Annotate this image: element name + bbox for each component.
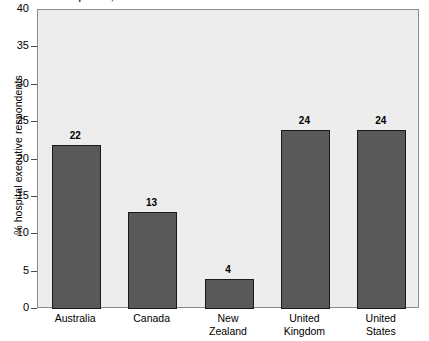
x-category-label-australia: Australia [35, 312, 115, 325]
y-tick-label: 15 [17, 189, 29, 201]
bar-new-zealand [205, 279, 254, 309]
bar-united-kingdom [281, 130, 330, 309]
y-tick-label: 25 [17, 114, 29, 126]
y-tick-label: 40 [17, 2, 29, 14]
bar-value-label: 24 [351, 115, 411, 126]
y-tick-label: 0 [23, 301, 29, 313]
y-tick-label: 5 [23, 264, 29, 276]
bar-value-label: 22 [45, 130, 105, 141]
bar-value-label: 24 [274, 115, 334, 126]
y-tick-mark [31, 308, 37, 309]
bar-value-label: 4 [198, 264, 258, 275]
y-tick-label: 35 [17, 39, 29, 51]
y-tick-label: 20 [17, 152, 29, 164]
x-category-label-united-states: United States [341, 312, 421, 338]
y-tick-label: 30 [17, 77, 29, 89]
y-tick-label: 10 [17, 226, 29, 238]
bar-canada [128, 212, 177, 309]
x-category-label-united-kingdom: United Kingdom [264, 312, 344, 338]
bar-united-states [357, 130, 406, 309]
bar-chart-figure: competition, 2008 % hospital executive r… [0, 0, 429, 341]
x-category-label-canada: Canada [112, 312, 192, 325]
chart-title: competition, 2008 [60, 0, 300, 2]
plot-inner [38, 10, 418, 307]
x-category-label-new-zealand: New Zealand [188, 312, 268, 338]
bar-value-label: 13 [122, 197, 182, 208]
bar-australia [52, 145, 101, 309]
